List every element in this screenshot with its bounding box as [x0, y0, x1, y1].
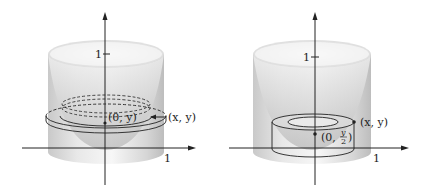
figure-shell-slice: 1 1 (x, y) (0, y 2 ): [211, 0, 423, 192]
center-point-num: y: [340, 128, 346, 137]
y-axis-arrow: [313, 12, 318, 20]
figure-washer-slice: 1 1 (0, y) (x, y): [0, 0, 212, 192]
y-axis-arrow: [103, 12, 108, 20]
outer-point-label: (x, y): [168, 111, 196, 124]
washer-diagram: 1 1 (0, y) (x, y): [0, 0, 212, 192]
inner-point-label: (0, y): [108, 111, 137, 124]
center-point-den: 2: [341, 137, 346, 146]
point-outer: [352, 120, 356, 124]
y-tick-label: 1: [303, 51, 310, 64]
y-tick-label: 1: [95, 48, 102, 61]
x-tick-label: 1: [373, 152, 380, 165]
point-inner: [103, 121, 106, 124]
point-center: [313, 132, 317, 136]
x-axis-arrow: [401, 146, 409, 151]
outer-point-label: (x, y): [360, 116, 388, 129]
x-tick-label: 1: [164, 152, 171, 165]
shell-top-inner: [288, 117, 338, 127]
center-point-label-prefix: (0,: [321, 131, 336, 144]
center-point-label-suffix: ): [348, 131, 352, 144]
shell-diagram: 1 1 (x, y) (0, y 2 ): [211, 0, 423, 192]
x-axis-arrow: [188, 146, 196, 151]
